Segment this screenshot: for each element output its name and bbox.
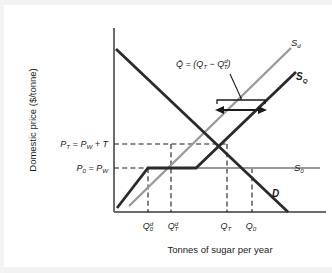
curve-label-D: D [272, 188, 279, 199]
q0d-sub: 0 [150, 225, 154, 232]
sq-sub: Q [303, 77, 308, 84]
x-tick-label-qT: QT [221, 221, 233, 232]
x-axis-title: Tonnes of sugar per year [167, 244, 272, 255]
pt-tariff-term: T [103, 139, 110, 149]
annotation-leader-line [230, 74, 241, 98]
y-axis-title: Domestic price ($/tonne) [27, 68, 38, 171]
annotation-close: ) [227, 59, 231, 69]
curve-domestic-supply-Sd [129, 48, 291, 206]
x-tick-label-qTd: QdT [168, 220, 180, 233]
price-label-tariff: PT = PW + T [60, 139, 109, 150]
x-tick-label-q0: Q0 [246, 221, 257, 232]
curve-label-Sd: Sd [291, 37, 301, 49]
p0-eq: = [86, 163, 96, 173]
curve-demand-D [116, 49, 288, 212]
annotation-brace [217, 97, 265, 104]
price-label-world: P0 = PW [76, 163, 109, 174]
x-tick-label-q0d: Qd0 [143, 220, 154, 233]
q0-base: Q [246, 221, 253, 231]
curve-label-SQ: SQ [296, 71, 308, 84]
annotation-minus: − [207, 59, 217, 69]
sd-sub: d [297, 42, 301, 49]
annotation-formula: Q̄ = (QT − QdT) [176, 57, 231, 70]
annotation-arrow-head-left [215, 106, 224, 114]
annotation-arrow-head-right [258, 106, 267, 114]
pt-plus: + [92, 139, 102, 149]
curve-supply-quota-SQ [117, 72, 296, 208]
annotation-qbar: Q̄ [176, 59, 183, 69]
figure-container: Q̄ = (QT − QdT) PT = PW + T P0 = PW Qd0 … [0, 0, 332, 273]
qT-base: Q [221, 221, 228, 231]
q0-sub: 0 [253, 225, 257, 232]
pt-eq: = [70, 139, 80, 149]
supply-demand-chart: Q̄ = (QT − QdT) PT = PW + T P0 = PW Qd0 … [0, 0, 332, 273]
p0-pw-sub: W [102, 167, 109, 174]
qTd-sub: T [175, 225, 180, 232]
curve-label-S0: S0 [294, 162, 304, 174]
annotation-term1-base: Q [196, 59, 203, 69]
axis-lines [114, 28, 326, 212]
s0-sub: 0 [300, 167, 304, 174]
qT-sub: T [228, 225, 233, 232]
annotation-equals: = ( [183, 59, 197, 69]
